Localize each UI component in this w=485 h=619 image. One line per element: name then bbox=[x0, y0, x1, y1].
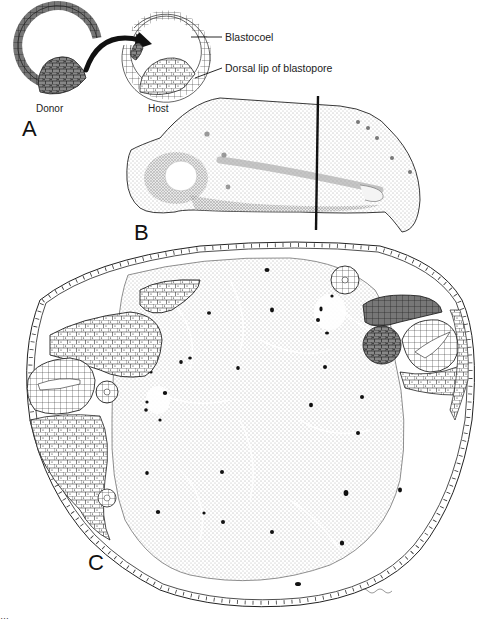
panel-c-letter: C bbox=[88, 552, 104, 574]
blastocoel-callout: Blastocoel bbox=[225, 32, 273, 43]
panel-a-drawing bbox=[9, 2, 222, 102]
host-embryo bbox=[122, 14, 210, 102]
host-label: Host bbox=[148, 104, 169, 114]
panel-a-letter: A bbox=[22, 118, 37, 140]
eye-vesicle bbox=[165, 161, 197, 191]
donor-embryo bbox=[9, 2, 97, 94]
donor-label: Donor bbox=[36, 104, 63, 114]
figure-drawing bbox=[0, 0, 485, 619]
grafted-notochord bbox=[363, 326, 401, 364]
panel-b-drawing bbox=[127, 96, 420, 232]
artist-signature bbox=[360, 589, 392, 593]
panel-b-letter: B bbox=[134, 222, 149, 244]
dorsal-lip-callout: Dorsal lip of blastopore bbox=[225, 63, 332, 74]
figure-caption-truncated: … bbox=[0, 611, 485, 619]
